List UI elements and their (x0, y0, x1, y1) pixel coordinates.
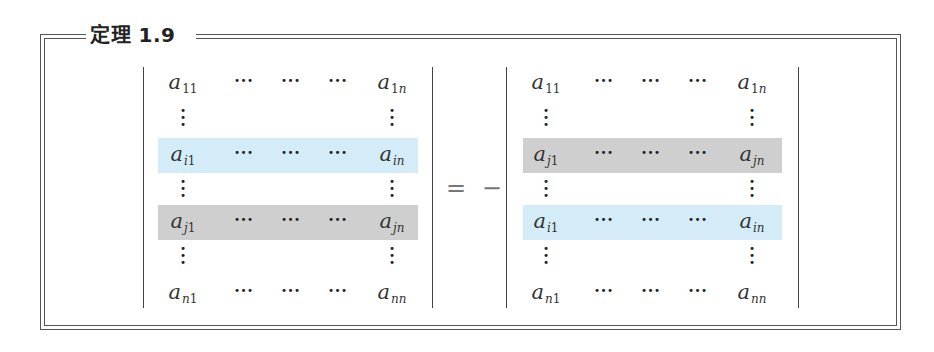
hdots: ··· (328, 71, 348, 90)
vdots-first-column: ··· (543, 245, 549, 266)
left-determinant: a11·········a1n······ai1·········ain····… (143, 67, 433, 308)
entry-a1n: a1n (378, 70, 407, 96)
hdots: ··· (641, 71, 661, 90)
entry-ai1: ai1 (533, 209, 558, 235)
entry-ann: ann (738, 280, 767, 306)
vdots-first-column: ··· (180, 107, 186, 128)
vdots-last-column: ··· (749, 245, 755, 266)
vdots-first-column: ··· (180, 245, 186, 266)
entry-an1: an1 (532, 280, 561, 306)
entry-a1n: a1n (738, 70, 767, 96)
vdots-first-column: ··· (180, 178, 186, 199)
hdots: ··· (688, 143, 708, 162)
hdots: ··· (281, 210, 301, 229)
vdots-first-column: ··· (543, 178, 549, 199)
vdots-last-column: ··· (389, 107, 395, 128)
vdots-last-column: ··· (389, 178, 395, 199)
hdots: ··· (328, 281, 348, 300)
determinant-bar-right (432, 67, 433, 308)
right-determinant: a11·········a1n······aj1·········ajn····… (506, 67, 799, 308)
vdots-last-column: ··· (389, 245, 395, 266)
hdots: ··· (328, 143, 348, 162)
hdots: ··· (594, 71, 614, 90)
hdots: ··· (234, 210, 254, 229)
hdots: ··· (641, 210, 661, 229)
entry-an1: an1 (169, 280, 198, 306)
hdots: ··· (234, 71, 254, 90)
entry-aj1: aj1 (534, 142, 559, 168)
entry-ajn: ajn (380, 209, 405, 235)
hdots: ··· (281, 143, 301, 162)
vdots-last-column: ··· (749, 107, 755, 128)
hdots: ··· (594, 210, 614, 229)
hdots: ··· (594, 281, 614, 300)
hdots: ··· (688, 281, 708, 300)
theorem-title: 定理 1.9 (90, 19, 175, 48)
determinant-bar-left (143, 67, 144, 308)
entry-ain: ain (379, 142, 404, 168)
entry-a11: a11 (169, 70, 198, 96)
vdots-first-column: ··· (543, 107, 549, 128)
entry-a11: a11 (532, 70, 561, 96)
determinant-bar-right (798, 67, 799, 308)
hdots: ··· (281, 71, 301, 90)
hdots: ··· (234, 143, 254, 162)
entry-ajn: ajn (740, 142, 765, 168)
entry-ain: ain (739, 209, 764, 235)
determinant-bar-left (506, 67, 507, 308)
entry-aj1: aj1 (171, 209, 196, 235)
hdots: ··· (641, 143, 661, 162)
entry-ann: ann (378, 280, 407, 306)
hdots: ··· (281, 281, 301, 300)
equals-minus-operator: = − (446, 174, 506, 202)
hdots: ··· (328, 210, 348, 229)
hdots: ··· (234, 281, 254, 300)
vdots-last-column: ··· (749, 178, 755, 199)
entry-ai1: ai1 (170, 142, 195, 168)
hdots: ··· (688, 210, 708, 229)
hdots: ··· (594, 143, 614, 162)
hdots: ··· (641, 281, 661, 300)
hdots: ··· (688, 71, 708, 90)
